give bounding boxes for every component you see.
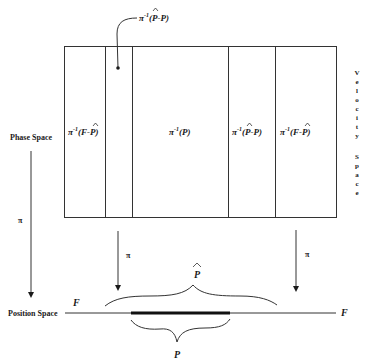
arrowhead-left bbox=[28, 292, 34, 298]
brace-p bbox=[131, 319, 230, 342]
pi-label-middle: π bbox=[126, 251, 131, 260]
brace-p-hat bbox=[105, 285, 277, 306]
region-label-p: π-1(P) bbox=[169, 126, 190, 137]
svg-text:a: a bbox=[355, 171, 359, 179]
svg-text:S: S bbox=[355, 153, 359, 161]
svg-text:c: c bbox=[355, 105, 358, 113]
svg-text:l: l bbox=[356, 87, 358, 95]
region-label-f-minus-phat-left: π-1(F-P) bbox=[68, 126, 98, 137]
hat-mark bbox=[193, 263, 201, 267]
svg-text:e: e bbox=[355, 189, 358, 197]
svg-text:o: o bbox=[355, 96, 359, 104]
arrowhead-right bbox=[293, 286, 299, 292]
svg-text:y: y bbox=[355, 132, 359, 140]
callout-leader bbox=[117, 18, 137, 68]
hat-mark bbox=[93, 123, 98, 126]
hat-mark bbox=[247, 123, 252, 126]
f-label-right: F bbox=[340, 307, 348, 318]
f-label-left: F bbox=[72, 297, 80, 308]
region-label-phat-minus-p-right: π-1(P-P) bbox=[232, 126, 262, 137]
svg-text:e: e bbox=[355, 78, 358, 86]
phase-space-label: Phase Space bbox=[10, 133, 52, 142]
region-label-f-minus-phat-right: π-1(F-P) bbox=[280, 126, 310, 137]
svg-text:i: i bbox=[356, 114, 358, 122]
position-space-label: Position Space bbox=[8, 309, 58, 318]
velocity-space-label: V e l o c i t y S p a c e bbox=[354, 69, 359, 197]
pi-label-right: π bbox=[305, 250, 310, 259]
svg-text:V: V bbox=[354, 69, 359, 77]
p-label: P bbox=[174, 349, 181, 360]
hat-mark bbox=[305, 123, 310, 126]
svg-text:p: p bbox=[355, 162, 359, 170]
arrowhead-middle bbox=[115, 285, 121, 291]
hat-mark bbox=[153, 8, 158, 11]
phase-space-diagram: π-1(F-P) π-1(P) π-1(P-P) π-1(F-P) π-1(P-… bbox=[0, 0, 365, 364]
svg-text:c: c bbox=[355, 180, 358, 188]
p-hat-label: P bbox=[194, 269, 201, 280]
svg-text:t: t bbox=[356, 123, 359, 131]
callout-dot bbox=[116, 66, 120, 70]
callout-label: π-1(P-P) bbox=[139, 12, 169, 23]
pi-label-left: π bbox=[18, 216, 23, 225]
